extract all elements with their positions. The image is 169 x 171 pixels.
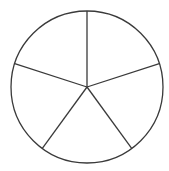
divided-circle-diagram [0, 0, 169, 171]
